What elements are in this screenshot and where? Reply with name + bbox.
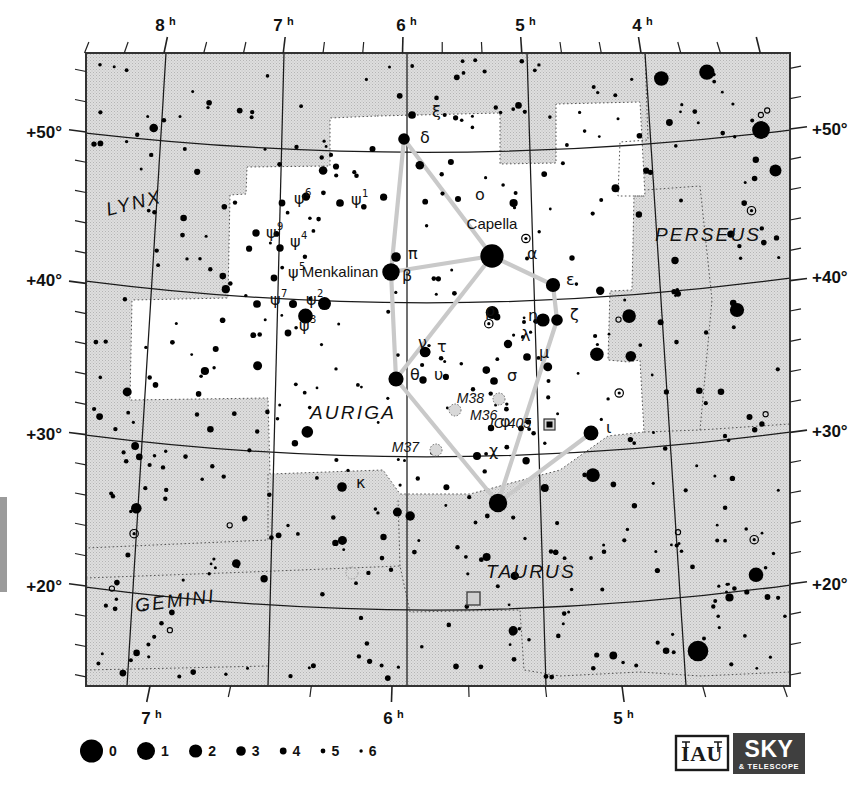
star-mu <box>523 353 531 361</box>
star-lambda <box>504 340 512 348</box>
field-star <box>561 161 565 165</box>
legend-dot-mag-3[interactable] <box>236 746 246 756</box>
dec-label-left-40: +40° <box>26 271 62 290</box>
field-star <box>680 103 683 106</box>
field-star <box>533 68 537 72</box>
field-star <box>224 673 227 676</box>
field-star <box>471 115 474 118</box>
field-star <box>185 257 188 260</box>
field-star <box>250 332 256 338</box>
field-star <box>750 118 754 122</box>
field-star <box>320 343 323 346</box>
field-star <box>623 299 626 302</box>
field-star <box>220 273 227 280</box>
field-star <box>180 233 185 238</box>
dso-label-m37: M37 <box>392 439 420 455</box>
field-star <box>232 411 237 416</box>
field-star <box>569 255 574 260</box>
field-star <box>146 115 149 118</box>
field-star <box>520 59 525 64</box>
star-psi7 <box>253 300 261 308</box>
field-star <box>727 439 731 443</box>
dec-right-labels: +50°+40°+30°+20° <box>812 120 848 594</box>
field-star <box>435 293 438 296</box>
field-star <box>679 110 682 113</box>
field-star <box>113 427 117 431</box>
field-star <box>723 434 727 438</box>
field-star <box>582 473 587 478</box>
dec-label-left-30: +30° <box>26 425 62 444</box>
field-star <box>332 540 338 546</box>
field-star <box>744 589 749 594</box>
field-star <box>634 664 638 668</box>
field-star <box>359 616 363 620</box>
field-star <box>320 592 325 597</box>
field-star <box>123 387 132 396</box>
field-star <box>316 387 319 390</box>
field-star <box>777 256 780 259</box>
legend-dot-mag-6[interactable] <box>359 749 362 752</box>
field-star <box>509 643 512 646</box>
field-star <box>460 362 464 366</box>
field-star <box>115 598 118 601</box>
field-star <box>548 115 552 119</box>
field-star <box>577 372 580 375</box>
field-star <box>208 572 211 575</box>
field-star <box>504 407 509 412</box>
field-star <box>648 170 653 175</box>
field-star <box>518 627 521 630</box>
field-star <box>370 146 376 152</box>
field-star <box>136 454 143 461</box>
field-star <box>443 484 449 490</box>
ra-tick-minor-top <box>717 42 720 53</box>
field-star <box>113 65 116 68</box>
field-star <box>144 346 147 349</box>
field-star <box>365 641 370 646</box>
field-star <box>732 325 736 329</box>
field-star <box>308 216 312 220</box>
field-star <box>713 474 716 477</box>
dec-tick-minor-right <box>790 66 801 68</box>
legend-dot-mag-2[interactable] <box>189 744 202 757</box>
field-star <box>422 199 428 205</box>
field-star <box>494 105 498 109</box>
field-star <box>389 568 393 572</box>
field-star <box>237 108 243 114</box>
legend-dot-mag-4[interactable] <box>280 748 287 755</box>
field-star <box>98 110 102 114</box>
field-star <box>562 622 565 625</box>
field-star <box>556 412 559 415</box>
field-star <box>334 458 338 462</box>
star-perseus-alpha <box>752 121 770 139</box>
field-star <box>594 652 599 657</box>
field-star <box>543 363 552 372</box>
field-star <box>210 563 213 566</box>
star-aldebaran-region <box>688 641 709 662</box>
field-star <box>730 476 735 481</box>
field-star <box>671 633 674 636</box>
legend-dot-mag-0[interactable] <box>80 740 103 763</box>
dec-label-right-30: +30° <box>812 422 848 441</box>
field-star <box>563 556 567 560</box>
dec-tick-minor-right <box>790 521 801 523</box>
field-star <box>410 64 414 68</box>
field-star <box>755 667 758 670</box>
field-star <box>479 664 484 669</box>
legend-dot-mag-5[interactable] <box>321 749 326 754</box>
field-star <box>729 662 733 666</box>
magnitude-legend[interactable]: 0123456 <box>80 740 377 763</box>
star-zeta <box>551 314 563 326</box>
field-star <box>247 448 251 452</box>
bayer-label: ι <box>606 418 611 437</box>
field-star <box>713 599 717 603</box>
field-star <box>725 591 728 594</box>
dec-tick-minor-left <box>75 190 86 192</box>
star-psi5 <box>271 275 278 282</box>
dso-label-ic405: IC 405 <box>490 415 531 431</box>
field-star <box>690 565 695 570</box>
field-star <box>222 474 226 478</box>
legend-dot-mag-1[interactable] <box>137 742 155 760</box>
bayer-superscript: 6 <box>305 187 311 198</box>
dec-tick-minor-left <box>75 675 86 677</box>
field-star <box>149 124 158 133</box>
